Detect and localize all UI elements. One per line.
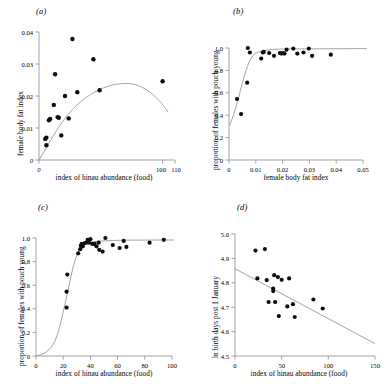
svg-text:4.6: 4.6 bbox=[221, 328, 230, 335]
svg-text:0.04: 0.04 bbox=[330, 166, 342, 173]
svg-text:0: 0 bbox=[27, 353, 31, 360]
svg-text:0.6: 0.6 bbox=[215, 89, 224, 96]
panel-c-data-points bbox=[65, 236, 166, 310]
svg-text:0.2: 0.2 bbox=[22, 329, 30, 336]
svg-text:1.0: 1.0 bbox=[22, 235, 31, 242]
svg-text:4.8: 4.8 bbox=[221, 279, 230, 286]
svg-text:0: 0 bbox=[233, 362, 237, 369]
svg-text:40: 40 bbox=[87, 362, 94, 369]
svg-text:20: 20 bbox=[60, 362, 67, 369]
panel-a: (a) female body fat index index of hinau… bbox=[0, 0, 194, 196]
svg-text:0.01: 0.01 bbox=[21, 125, 33, 132]
svg-text:5.0: 5.0 bbox=[221, 231, 230, 238]
svg-text:0: 0 bbox=[227, 166, 231, 173]
svg-text:0.4: 0.4 bbox=[215, 112, 224, 119]
svg-text:0: 0 bbox=[37, 166, 41, 173]
svg-text:110: 110 bbox=[171, 166, 181, 173]
svg-text:100: 100 bbox=[156, 166, 167, 173]
panel-c: (c) proportion of females with pouch you… bbox=[0, 196, 194, 392]
svg-text:4.9: 4.9 bbox=[221, 255, 230, 262]
svg-text:100: 100 bbox=[323, 362, 334, 369]
svg-text:80: 80 bbox=[142, 362, 149, 369]
svg-text:0.04: 0.04 bbox=[21, 29, 33, 36]
svg-text:100: 100 bbox=[167, 362, 178, 369]
svg-text:0: 0 bbox=[34, 362, 38, 369]
svg-text:50: 50 bbox=[278, 362, 285, 369]
svg-text:0.01: 0.01 bbox=[250, 166, 262, 173]
panel-a-data-points bbox=[43, 37, 165, 148]
svg-text:0.02: 0.02 bbox=[21, 93, 33, 100]
svg-text:0.8: 0.8 bbox=[215, 67, 224, 74]
svg-text:0.03: 0.03 bbox=[304, 166, 316, 173]
four-panel-scatter-figure: (a) female body fat index index of hinau… bbox=[0, 0, 389, 392]
svg-text:0: 0 bbox=[30, 157, 34, 164]
svg-text:0.8: 0.8 bbox=[22, 258, 31, 265]
panel-b-plot-area: 0 0.2 0.4 0.6 0.8 1.0 0 0.01 0.02 0.03 0… bbox=[195, 0, 389, 196]
panel-d: (d) ln birth days post 1 January index o… bbox=[195, 196, 389, 392]
svg-text:60: 60 bbox=[114, 362, 121, 369]
panel-a-plot-area: 0 0.01 0.02 0.03 0.04 0 100 110 bbox=[0, 0, 194, 196]
svg-text:0.4: 0.4 bbox=[22, 305, 31, 312]
svg-text:0.02: 0.02 bbox=[277, 166, 289, 173]
svg-text:0.2: 0.2 bbox=[215, 134, 223, 141]
svg-text:0: 0 bbox=[220, 157, 224, 164]
panel-c-plot-area: 0 0.2 0.4 0.6 0.8 1.0 0 20 40 60 80 100 bbox=[0, 196, 194, 392]
svg-text:0.6: 0.6 bbox=[22, 282, 31, 289]
panel-d-plot-area: 4.5 4.6 4.7 4.8 4.9 5.0 0 50 100 150 bbox=[195, 196, 389, 392]
panel-d-data-points bbox=[253, 247, 324, 319]
svg-text:1.0: 1.0 bbox=[215, 45, 224, 52]
svg-text:150: 150 bbox=[370, 362, 381, 369]
svg-text:0.05: 0.05 bbox=[357, 166, 369, 173]
panel-b: (b) proportion of females with pouch you… bbox=[195, 0, 389, 196]
svg-text:4.7: 4.7 bbox=[221, 304, 230, 311]
svg-text:4.5: 4.5 bbox=[221, 353, 230, 360]
panel-b-data-points bbox=[235, 46, 333, 116]
svg-text:0.03: 0.03 bbox=[21, 61, 33, 68]
